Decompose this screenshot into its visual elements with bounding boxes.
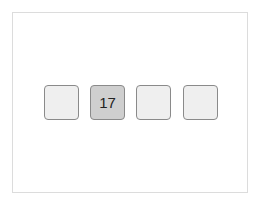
tile-2[interactable]: 17: [90, 85, 125, 120]
tile-3[interactable]: [136, 85, 171, 120]
tile-4[interactable]: [183, 85, 218, 120]
tile-1[interactable]: [44, 85, 79, 120]
